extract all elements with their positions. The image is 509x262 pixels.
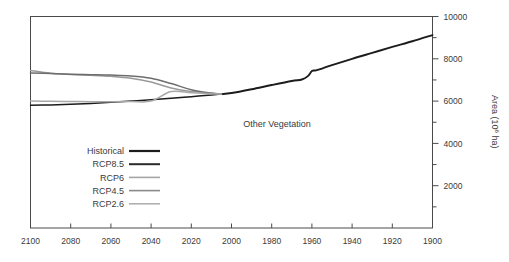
chart-figure: 2100208020602040202020001980196019401920… xyxy=(0,0,509,262)
x-tick-label: 2060 xyxy=(101,236,120,246)
y-axis-title-base: Area (10 xyxy=(490,95,500,130)
x-tick-label: 2100 xyxy=(21,236,40,246)
y-axis-title-tail: ha) xyxy=(490,133,500,149)
y-tick-label: 2000 xyxy=(444,181,463,191)
x-tick-label: 1940 xyxy=(343,236,362,246)
legend-label-historical: Historical xyxy=(87,146,124,156)
x-tick-label: 1980 xyxy=(262,236,281,246)
x-tick-label: 2020 xyxy=(182,236,201,246)
x-tick-label: 2000 xyxy=(222,236,241,246)
plot-annotation: Other Vegetation xyxy=(243,119,311,129)
x-tick-label: 2080 xyxy=(61,236,80,246)
x-tick-label: 1900 xyxy=(423,236,442,246)
y-axis-title: Area (106 ha) xyxy=(490,95,501,149)
x-tick-label: 1960 xyxy=(302,236,321,246)
legend-label-rcp8-5: RCP8.5 xyxy=(92,159,124,169)
other-vegetation-line-chart: 2100208020602040202020001980196019401920… xyxy=(0,0,509,262)
y-tick-label: 8000 xyxy=(444,54,463,64)
legend-label-rcp4-5: RCP4.5 xyxy=(92,186,124,196)
y-tick-label: 6000 xyxy=(444,96,463,106)
y-axis-title-text: Area (106 ha) xyxy=(490,95,501,149)
x-tick-label: 2040 xyxy=(142,236,161,246)
legend-label-rcp2-6: RCP2.6 xyxy=(92,199,124,209)
y-tick-label: 4000 xyxy=(444,139,463,149)
x-tick-label: 1920 xyxy=(383,236,402,246)
y-tick-label: 10000 xyxy=(444,12,468,22)
legend-label-rcp6: RCP6 xyxy=(100,173,124,183)
